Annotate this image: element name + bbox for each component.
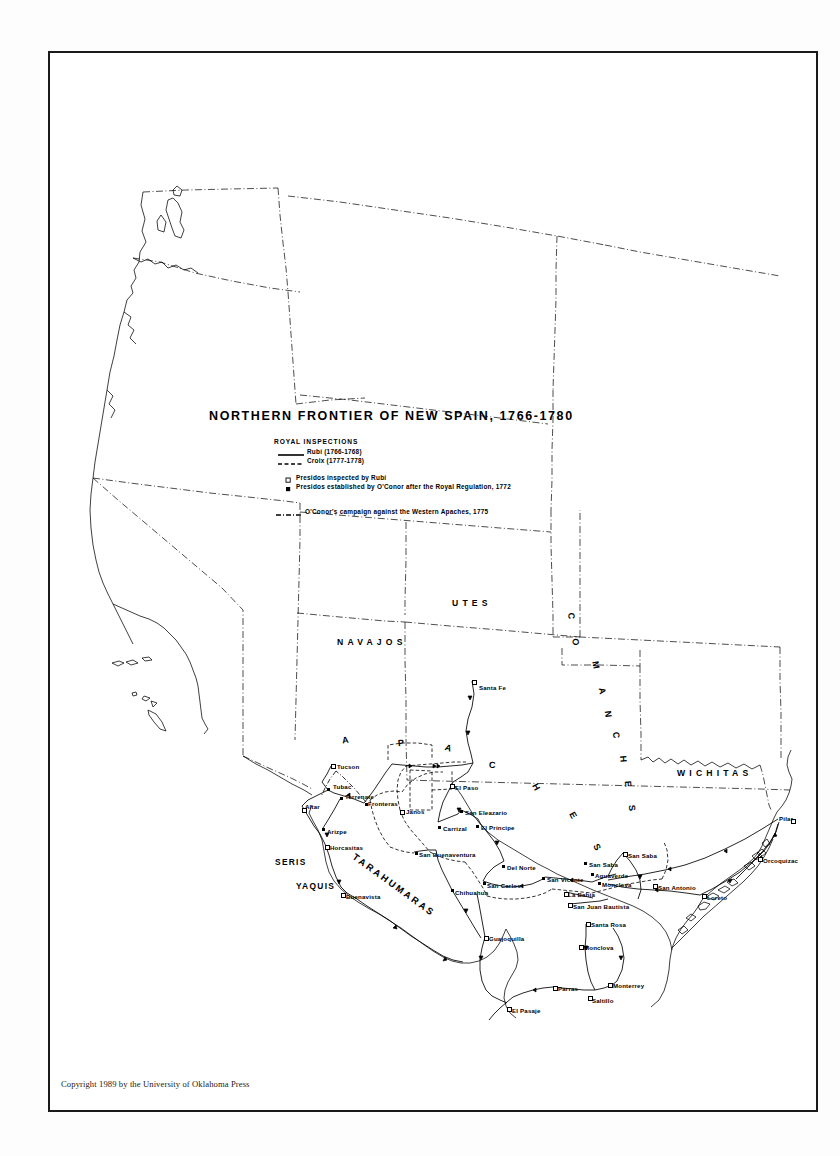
tribe-label-comanches-letter-6: H bbox=[618, 755, 629, 763]
presidio-marker-monclova bbox=[598, 882, 601, 885]
tribe-label-wichitas: WICHITAS bbox=[677, 768, 752, 778]
place-label-fronteras: Fronteras bbox=[368, 800, 398, 807]
presidio-marker-santa-fe bbox=[472, 680, 477, 685]
tribe-label-comanches-letter-0: C bbox=[566, 613, 576, 620]
place-label-del-norte: Del Norte bbox=[507, 864, 536, 871]
tribe-label-comanches-letter-1: O bbox=[570, 638, 580, 645]
legend-croix-line-swatch bbox=[278, 461, 304, 467]
legend-croix-label: Croix (1777-1778) bbox=[307, 457, 364, 464]
copyright-notice: Copyright 1989 by the University of Okla… bbox=[61, 1079, 250, 1089]
tribe-label-yaquis: YAQUIS bbox=[296, 881, 335, 891]
place-label-monclova: Monclova bbox=[602, 881, 632, 888]
place-label-tucson: Tucson bbox=[337, 763, 359, 770]
presidio-marker-janos bbox=[400, 810, 405, 815]
place-label-san-juan-bautista: San Juan Bautista bbox=[573, 903, 629, 910]
presidio-marker-san-vicente bbox=[542, 877, 545, 880]
map-page: .out { fill:none; stroke:#000; stroke-wi… bbox=[0, 0, 840, 1156]
tribe-label-apaches-letter-3: C bbox=[489, 760, 496, 770]
presidio-marker-san-carlos bbox=[483, 882, 486, 885]
presidio-marker-carrizal bbox=[438, 826, 441, 829]
presidio-marker-arizpe bbox=[322, 828, 325, 831]
tribe-label-seris: SERIS bbox=[275, 857, 307, 867]
place-label-monterrey: Monterrey bbox=[613, 982, 644, 989]
tribe-label-comanches-letter-8: S bbox=[627, 804, 638, 811]
place-label-terrenate: Terrenate bbox=[345, 793, 374, 800]
place-label-guajoquilla: Guajoquilla bbox=[489, 935, 524, 942]
place-label-san-vicente: San Vicente bbox=[547, 876, 584, 883]
presidio-marker-tubac bbox=[327, 788, 330, 791]
place-label-monclova: Monclova bbox=[584, 944, 614, 951]
place-label-san-saba: San Saba bbox=[589, 861, 618, 868]
place-label-arizpe: Arizpe bbox=[327, 828, 347, 835]
place-label-santa-rosa: Santa Rosa bbox=[591, 921, 626, 928]
tribe-label-comanches-letter-3: A bbox=[597, 687, 608, 695]
place-label-horcasitas: Horcasitas bbox=[330, 844, 363, 851]
tribe-label-utes: UTES bbox=[452, 598, 492, 608]
place-label-carrizal: Carrizal bbox=[443, 825, 467, 832]
tribe-label-navajos: NAVAJOS bbox=[337, 637, 407, 647]
legend-presidio-established-label: Presidos established by O'Conor after th… bbox=[296, 483, 511, 490]
presidio-marker-san-buenaventura bbox=[415, 852, 418, 855]
legend-campaign-label: O'Conor's campaign against the Western A… bbox=[305, 508, 488, 515]
tribe-label-comanches-letter-5: C bbox=[611, 731, 622, 739]
presidio-marker-del-norte bbox=[502, 865, 505, 868]
presidio-marker-san-saba bbox=[584, 862, 587, 865]
place-label-parras: Parras bbox=[558, 985, 578, 992]
presidio-marker-el-principe bbox=[476, 825, 479, 828]
legend-rubi-line-swatch bbox=[278, 452, 304, 458]
tribe-label-comanches-letter-4: N bbox=[603, 710, 614, 718]
legend-campaign-line-swatch bbox=[276, 512, 302, 518]
legend-rubi-label: Rubí (1766-1768) bbox=[307, 448, 362, 455]
legend-heading: ROYAL INSPECTIONS bbox=[274, 438, 358, 445]
place-label-altar: Altar bbox=[305, 803, 320, 810]
legend-presidio-inspected-label: Presidos inspected by Rubí bbox=[296, 474, 386, 481]
place-label-san-eleazario: San Eleazario bbox=[465, 809, 507, 816]
presidio-marker-aguaverde bbox=[591, 873, 594, 876]
tribe-label-comanches-letter-7: E bbox=[623, 780, 634, 787]
presidio-marker-terrenate bbox=[340, 797, 343, 800]
place-label-san-buenaventura: San Buenaventura bbox=[419, 851, 476, 858]
place-label-san-antonio: San Antonio bbox=[658, 884, 696, 891]
place-label-chihuahua: Chihuahua bbox=[455, 889, 488, 896]
place-label-saltillo: Saltillo bbox=[592, 997, 614, 1004]
tribe-label-apaches-letter-0: A bbox=[341, 735, 349, 746]
place-label-orcoquizac: Orcoquizac bbox=[763, 857, 798, 864]
place-label-buenavista: Buenavista bbox=[346, 893, 381, 900]
place-label-santa-fe: Santa Fe bbox=[479, 684, 506, 691]
place-label-el-principe: El Principe bbox=[481, 824, 515, 831]
place-label-tubac: Tubac bbox=[333, 783, 352, 790]
place-label-san-carlos: San Carlos bbox=[487, 882, 521, 889]
presidio-marker-san-eleazario bbox=[460, 810, 463, 813]
place-label-la-bahia: La Bahia bbox=[568, 891, 595, 898]
map-frame-border bbox=[48, 51, 818, 1112]
place-label-loreto: Loreto bbox=[707, 894, 727, 901]
place-label-el-paso: El Paso bbox=[455, 784, 478, 791]
place-label-el-pasaje: El Pasaje bbox=[512, 1007, 541, 1014]
legend-hollow-square-marker bbox=[285, 477, 292, 484]
place-label-pilar: Pilar bbox=[779, 815, 793, 822]
legend-filled-square-marker bbox=[285, 486, 292, 493]
place-label-san-saba: San Saba bbox=[628, 852, 657, 859]
presidio-marker-tucson bbox=[331, 764, 336, 769]
place-label-aguaverde: Aguaverde bbox=[595, 872, 628, 879]
map-title: NORTHERN FRONTIER OF NEW SPAIN, 1766-178… bbox=[209, 409, 574, 423]
presidio-marker-chihuahua bbox=[451, 889, 454, 892]
tribe-label-apaches-letter-1: P bbox=[397, 738, 404, 749]
place-label-janos: Janos bbox=[406, 808, 425, 815]
